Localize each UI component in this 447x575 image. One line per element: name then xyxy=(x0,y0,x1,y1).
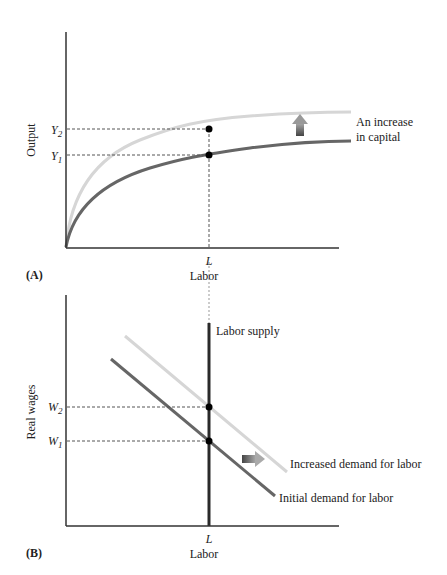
tick-l-a: L xyxy=(205,254,213,268)
right-arrow-icon xyxy=(242,451,265,467)
annotation-increase-capital-2: in capital xyxy=(356,130,401,144)
ylabel-output: Output xyxy=(24,123,38,157)
label-increased-demand: Increased demand for labor xyxy=(290,457,422,471)
xlabel-labor-a: Labor xyxy=(190,269,219,283)
up-arrow-icon xyxy=(292,114,308,136)
panel-b: Real wages W2 W1 L Labor (B) Labor suppl… xyxy=(24,295,422,561)
panel-a: Output Y2 Y1 L Labor (A) An increase in … xyxy=(24,32,413,323)
tick-y1: Y1 xyxy=(51,149,62,165)
tick-w2: W2 xyxy=(48,400,63,416)
xlabel-labor-b: Labor xyxy=(190,547,219,561)
point-l-w1 xyxy=(206,438,213,445)
tick-l-b: L xyxy=(205,532,213,546)
ylabel-real-wages: Real wages xyxy=(24,384,38,439)
tick-y2: Y2 xyxy=(51,123,63,139)
point-l-y1 xyxy=(206,152,213,159)
increased-demand-line xyxy=(125,336,287,472)
tick-w1: W1 xyxy=(48,434,63,450)
label-labor-supply: Labor supply xyxy=(216,324,280,338)
panel-a-tag: (A) xyxy=(26,268,43,282)
annotation-increase-capital-1: An increase xyxy=(356,115,413,129)
label-initial-demand: Initial demand for labor xyxy=(279,491,393,505)
point-l-y2 xyxy=(206,126,213,133)
figure: Output Y2 Y1 L Labor (A) An increase in … xyxy=(0,0,447,575)
point-l-w2 xyxy=(206,404,213,411)
initial-demand-line xyxy=(111,359,275,496)
panel-b-tag: (B) xyxy=(26,546,42,560)
